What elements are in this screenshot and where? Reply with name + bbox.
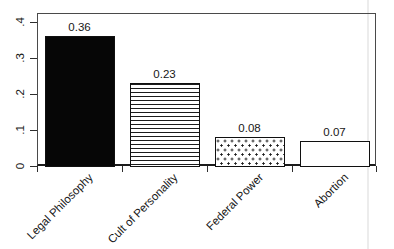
y-axis-label: .1 <box>13 118 27 142</box>
y-axis-label: .2 <box>13 82 27 106</box>
y-axis-label: 0 <box>13 154 27 178</box>
bar-federal-power <box>215 137 285 167</box>
bar-value-label: 0.08 <box>220 122 280 135</box>
x-axis-label-cult-of-personality: Cult of Personality <box>106 171 180 245</box>
bar-value-label: 0.23 <box>135 68 195 81</box>
bar-chart: 0.1.2.3.4 0.36Legal Philosophy0.23Cult o… <box>0 0 394 249</box>
x-axis-tick <box>292 166 293 172</box>
x-axis-tick <box>207 166 208 172</box>
bar-legal-philosophy <box>45 36 115 167</box>
bar-abortion <box>300 141 370 167</box>
x-axis-tick <box>37 166 38 172</box>
bar-value-label: 0.36 <box>50 21 110 34</box>
x-axis-label-legal-philosophy: Legal Philosophy <box>25 171 95 241</box>
y-axis-tick <box>30 58 37 59</box>
bar-cult-of-personality <box>130 83 200 167</box>
x-axis-tick <box>122 166 123 172</box>
bar-value-label: 0.07 <box>305 126 365 139</box>
y-axis-label: .4 <box>13 10 27 34</box>
y-axis-tick <box>30 94 37 95</box>
y-axis-tick <box>30 22 37 23</box>
x-axis-tick <box>376 166 377 172</box>
x-axis-label-federal-power: Federal Power <box>204 171 265 232</box>
y-axis-label: .3 <box>13 46 27 70</box>
x-axis-label-abortion: Abortion <box>311 171 350 210</box>
y-axis-tick <box>30 130 37 131</box>
